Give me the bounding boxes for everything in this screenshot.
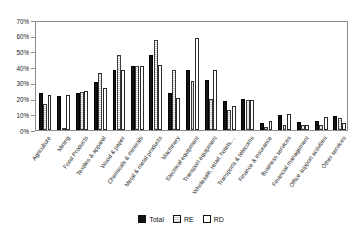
legend-label: RD [214, 216, 224, 223]
bar-total [57, 96, 61, 130]
bar-re [246, 100, 250, 130]
y-axis-tick-mark [31, 131, 35, 132]
bar-chart: 0%10%20%30%40%50%60%70% AgricultureMinin… [0, 0, 362, 241]
bar-total [223, 101, 227, 130]
bar-rd [84, 91, 88, 130]
y-axis-tick-label: 60% [3, 33, 29, 40]
bar-group [278, 22, 291, 130]
bar-rd [250, 100, 254, 130]
bar-re [135, 66, 139, 130]
bar-rd [269, 121, 273, 130]
plot-area [35, 21, 348, 131]
bar-group [149, 22, 162, 130]
legend-item: RD [203, 215, 224, 223]
bar-total [315, 121, 319, 130]
bar-re [172, 70, 176, 130]
bar-rd [48, 95, 52, 130]
bar-total [241, 99, 245, 130]
legend-swatch-re [173, 215, 181, 223]
bar-re [62, 128, 66, 130]
bar-total [94, 82, 98, 130]
x-axis-tick-label: Finance & insurance [237, 135, 274, 183]
bar-total [131, 66, 135, 130]
bar-group [131, 22, 144, 130]
bar-total [333, 116, 337, 130]
bars-container [36, 22, 347, 130]
bar-total [149, 55, 153, 130]
bar-group [333, 22, 346, 130]
bar-rd [305, 125, 309, 130]
bar-re [154, 40, 158, 130]
bar-group [260, 22, 273, 130]
bar-group [186, 22, 199, 130]
bar-group [94, 22, 107, 130]
bar-total [113, 70, 117, 130]
bar-group [168, 22, 181, 130]
bar-group [39, 22, 52, 130]
legend-item: Total [138, 215, 164, 223]
bar-rd [121, 70, 125, 130]
bar-rd [158, 65, 162, 130]
bar-rd [176, 98, 180, 130]
y-axis-tick-label: 70% [3, 18, 29, 25]
bar-rd [103, 88, 107, 130]
bar-group [315, 22, 328, 130]
bar-total [168, 93, 172, 130]
bar-total [278, 115, 282, 130]
y-axis-tick-label: 40% [3, 65, 29, 72]
bar-group [113, 22, 126, 130]
legend-item: RE [173, 215, 194, 223]
bar-rd [140, 66, 144, 130]
bar-re [80, 92, 84, 130]
bar-rd [324, 117, 328, 130]
y-axis-tick-label: 50% [3, 49, 29, 56]
bar-group [223, 22, 236, 130]
legend-label: Total [149, 216, 164, 223]
bar-total [297, 122, 301, 130]
bar-re [117, 55, 121, 130]
bar-group [205, 22, 218, 130]
legend-swatch-rd [203, 215, 211, 223]
bar-rd [66, 95, 70, 130]
bar-total [205, 80, 209, 130]
bar-total [260, 123, 264, 130]
x-axis-tick-label: Mining [56, 135, 72, 153]
bar-re [301, 125, 305, 131]
bar-rd [342, 123, 346, 130]
y-axis-tick-label: 20% [3, 96, 29, 103]
bar-group [57, 22, 70, 130]
bar-group [241, 22, 254, 130]
bar-re [98, 73, 102, 130]
x-axis-labels: AgricultureMiningFood ProductsTextiles &… [0, 133, 362, 223]
bar-re [209, 99, 213, 130]
legend-label: RE [184, 216, 194, 223]
bar-re [43, 104, 47, 130]
bar-re [264, 127, 268, 130]
legend-swatch-total [138, 215, 146, 223]
chart-legend: TotalRERD [0, 215, 362, 223]
bar-re [191, 81, 195, 130]
bar-re [283, 125, 287, 131]
bar-rd [287, 114, 291, 131]
bar-re [227, 110, 231, 130]
bar-total [39, 93, 43, 130]
x-axis-tick-label: Agriculture [31, 135, 53, 162]
y-axis-tick-label: 10% [3, 112, 29, 119]
bar-rd [213, 70, 217, 131]
y-axis-tick-label: 30% [3, 80, 29, 87]
bar-group [297, 22, 310, 130]
bar-rd [232, 106, 236, 130]
bar-re [338, 118, 342, 130]
bar-group [76, 22, 89, 130]
bar-total [186, 70, 190, 131]
bar-rd [195, 38, 199, 130]
bar-total [76, 93, 80, 130]
x-axis-tick-label: Metal & metal products [123, 135, 163, 188]
bar-re [319, 125, 323, 130]
